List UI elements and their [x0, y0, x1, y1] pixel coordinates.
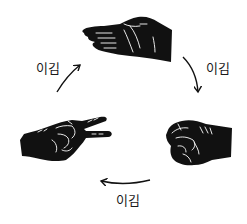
edge-label-scissors-beats-paper: 이김	[36, 62, 60, 75]
edge-label-rock-beats-scissors: 이김	[116, 194, 140, 207]
arrow-scissors-to-paper	[57, 65, 80, 92]
rock-paper-scissors-diagram: 이김 이김 이김	[0, 0, 247, 224]
arrow-rock-to-scissors	[101, 180, 150, 184]
edge-label-paper-beats-rock: 이김	[206, 62, 230, 75]
rock-fist-icon	[166, 120, 232, 165]
diagram-canvas	[0, 0, 247, 224]
paper-hand-icon	[82, 17, 172, 62]
arrow-paper-to-rock	[183, 57, 198, 92]
scissors-hand-icon	[20, 117, 112, 161]
